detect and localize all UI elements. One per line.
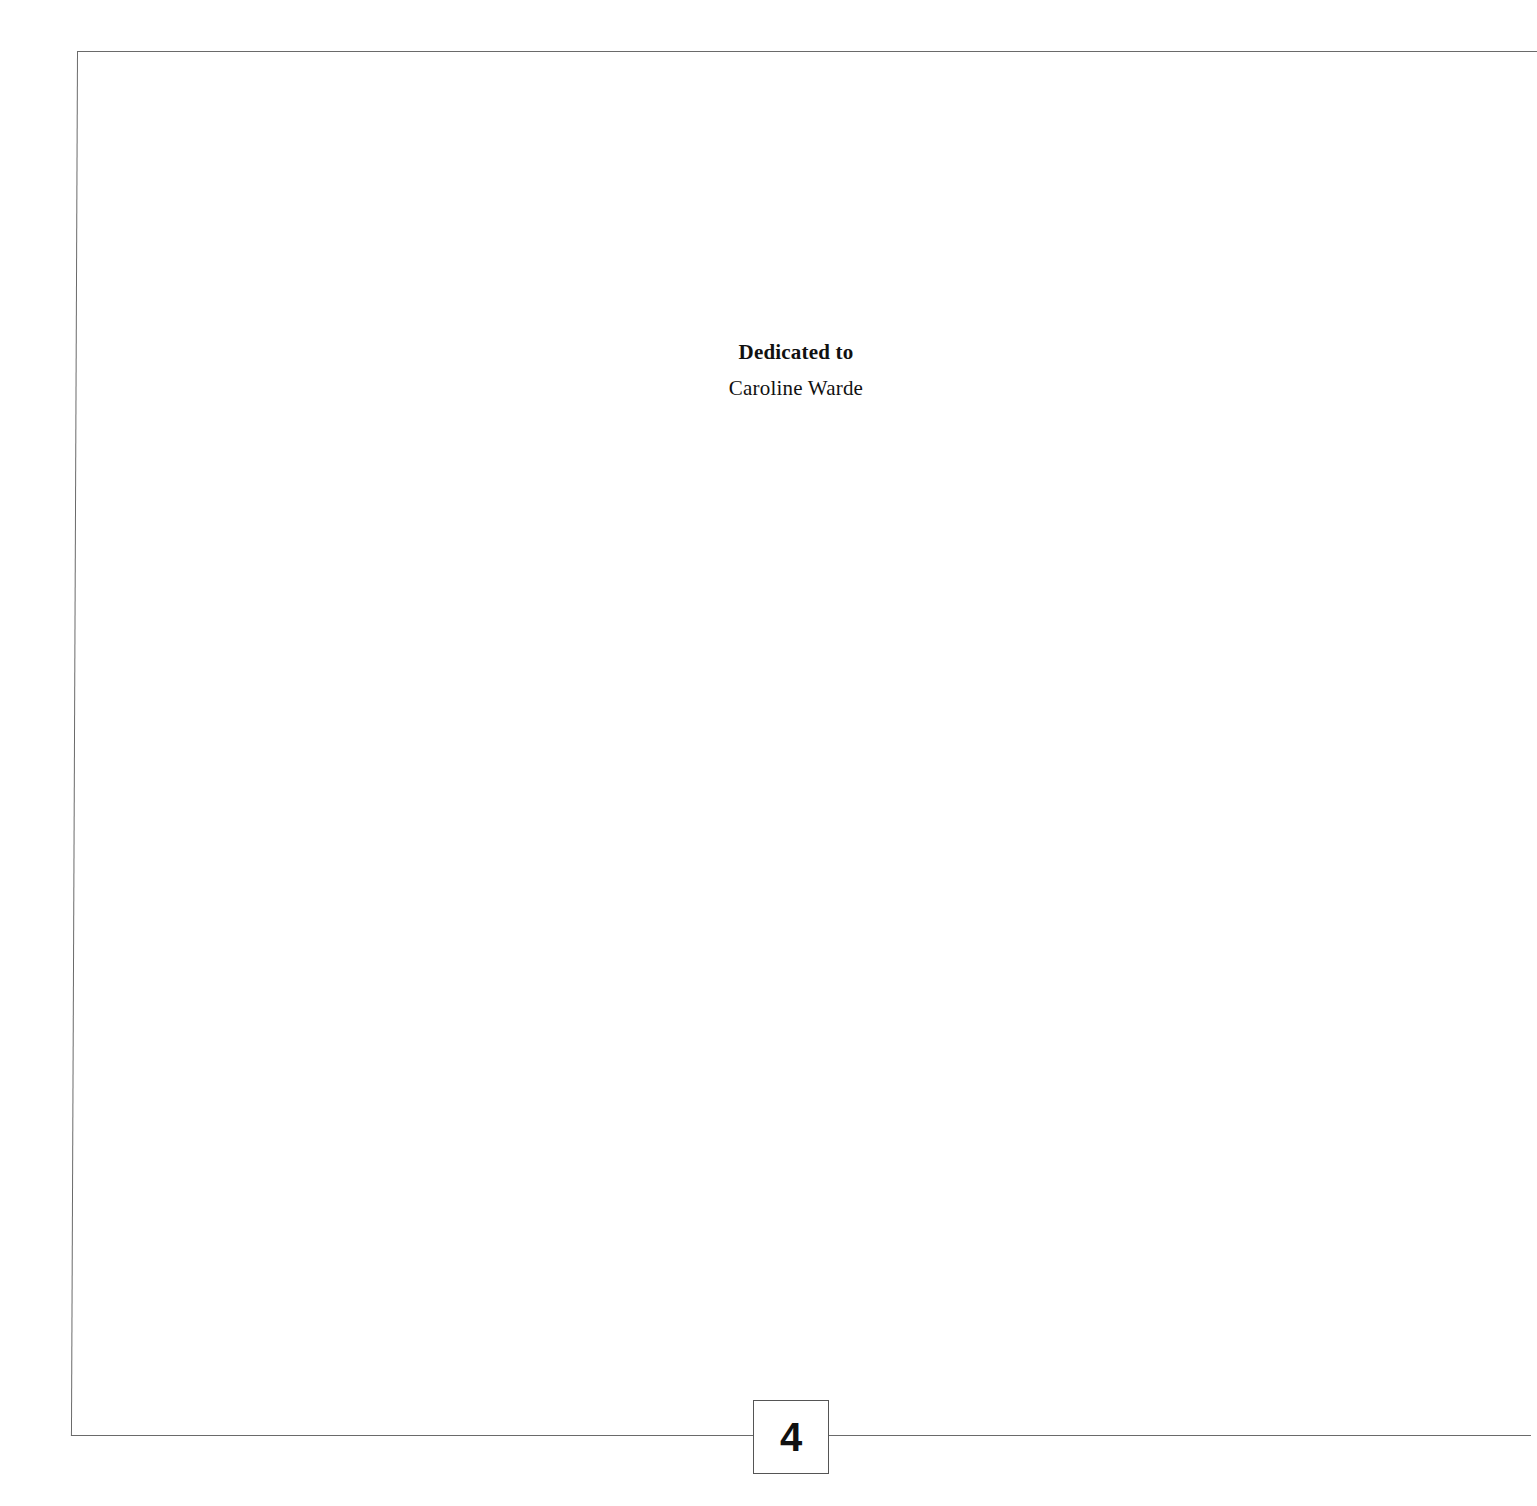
page-number: 4 xyxy=(780,1415,802,1460)
page-frame-border xyxy=(71,51,1537,1436)
dedication-heading: Dedicated to xyxy=(596,338,996,366)
dedication-block: Dedicated to Caroline Warde xyxy=(596,338,996,402)
dedication-name: Caroline Warde xyxy=(596,374,996,402)
page-number-box: 4 xyxy=(753,1400,829,1474)
